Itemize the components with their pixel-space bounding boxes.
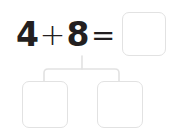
first-addend: 4	[16, 18, 38, 51]
part-box-left[interactable]	[22, 81, 68, 128]
number-bond-worksheet: 4 + 8 =	[0, 0, 182, 136]
part-box-right[interactable]	[97, 81, 143, 128]
plus-operator-icon: +	[39, 19, 65, 50]
equation-row: 4 + 8 =	[16, 14, 115, 54]
equals-operator-icon: =	[91, 21, 115, 50]
second-addend: 8	[66, 18, 88, 51]
sum-answer-box[interactable]	[122, 12, 166, 56]
